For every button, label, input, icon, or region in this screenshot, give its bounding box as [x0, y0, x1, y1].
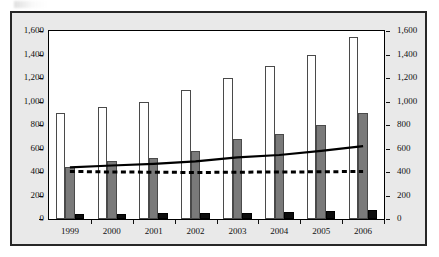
- y-tick-mark-right: [386, 78, 390, 79]
- y-tick-mark-right: [386, 219, 390, 220]
- x-tick-mark: [384, 220, 385, 224]
- x-tick-mark: [342, 220, 343, 224]
- y-tick-mark-right: [386, 55, 390, 56]
- y-tick-mark-right: [386, 196, 390, 197]
- y-tick-mark-left: [39, 219, 43, 220]
- y-tick-mark-right: [386, 125, 390, 126]
- scan-artifact: [14, 1, 48, 8]
- plot-area: [48, 30, 385, 220]
- y-tick-mark-left: [39, 196, 43, 197]
- y-tick-mark-left: [39, 78, 43, 79]
- y-tick-mark-right: [386, 102, 390, 103]
- y-tick-mark-left: [39, 55, 43, 56]
- y-tick-mark-right: [386, 31, 390, 32]
- y-tick-mark-right: [386, 172, 390, 173]
- solid-line: [70, 146, 363, 167]
- y-tick-mark-left: [39, 125, 43, 126]
- y-tick-mark-left: [39, 102, 43, 103]
- x-tick-label-2006: 2006: [333, 226, 393, 236]
- x-tick-mark: [300, 220, 301, 224]
- dashed-line: [70, 171, 363, 172]
- y-tick-mark-left: [39, 172, 43, 173]
- chart-page: 1,6001,4001,2001,0008006004002000 1,6001…: [0, 0, 439, 257]
- y-tick-mark-right: [386, 149, 390, 150]
- x-tick-mark: [133, 220, 134, 224]
- x-tick-mark: [91, 220, 92, 224]
- x-tick-mark: [175, 220, 176, 224]
- x-tick-mark: [258, 220, 259, 224]
- y-tick-mark-left: [39, 31, 43, 32]
- x-tick-mark: [217, 220, 218, 224]
- y-tick-mark-left: [39, 149, 43, 150]
- lines-layer: [49, 31, 384, 219]
